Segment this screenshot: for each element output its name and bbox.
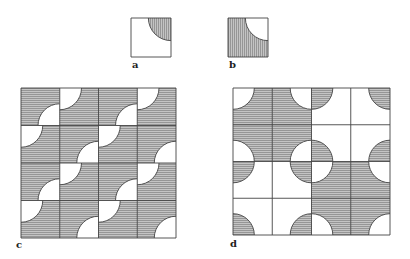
tile-type-b-br	[99, 163, 138, 201]
tile-type-a-br	[272, 198, 311, 235]
tile-type-b-tl	[21, 126, 60, 164]
tile-type-b-br	[99, 88, 138, 126]
tile-type-b-tl	[21, 201, 60, 239]
panel-d-tile-grid	[233, 88, 390, 235]
panel-label-d: d	[230, 239, 237, 249]
tile-type-b-br	[21, 88, 60, 126]
tile-type-b-br	[60, 126, 99, 164]
panel-b-single-tile-shaded	[228, 18, 268, 57]
tile-type-b-tl	[99, 126, 138, 164]
panel-a-single-tile-white	[131, 18, 171, 57]
panel-label-c: c	[16, 240, 22, 250]
tile-type-a-bl	[312, 125, 351, 162]
tile-type-b-tl	[233, 88, 272, 125]
tile-type-b-bl	[312, 198, 351, 235]
tile-type-a-tr	[272, 162, 311, 199]
figure-canvas	[0, 0, 410, 259]
tile-type-b-br	[272, 125, 311, 162]
tile-type-b-tr	[272, 88, 311, 125]
panel-label-a: a	[132, 60, 138, 70]
tile-type-b-br	[351, 198, 390, 235]
tile-type-b-br	[137, 201, 176, 239]
tile-type-b-br	[137, 126, 176, 164]
tile-type-a-tr	[351, 88, 390, 125]
tile-type-b-tl	[60, 163, 99, 201]
tile-type-a-tr	[131, 18, 171, 57]
tile-type-b-br	[60, 201, 99, 239]
tile-type-a-bl	[233, 198, 272, 235]
tile-type-a-br	[351, 125, 390, 162]
tile-type-b-tr	[228, 18, 268, 57]
tile-type-b-tl	[137, 163, 176, 201]
tile-type-b-tl	[137, 88, 176, 126]
tile-type-a-tl	[312, 88, 351, 125]
panel-label-b: b	[229, 60, 236, 70]
tile-type-b-tl	[60, 88, 99, 126]
panel-c-tile-grid	[21, 88, 176, 238]
tile-type-b-tl	[99, 201, 138, 239]
tile-type-b-bl	[233, 125, 272, 162]
truchet-tile-figure: a b c d	[0, 0, 410, 259]
tile-type-b-tr	[351, 162, 390, 199]
tile-type-b-br	[21, 163, 60, 201]
tile-type-a-tl	[233, 162, 272, 199]
tile-type-b-tl	[312, 162, 351, 199]
